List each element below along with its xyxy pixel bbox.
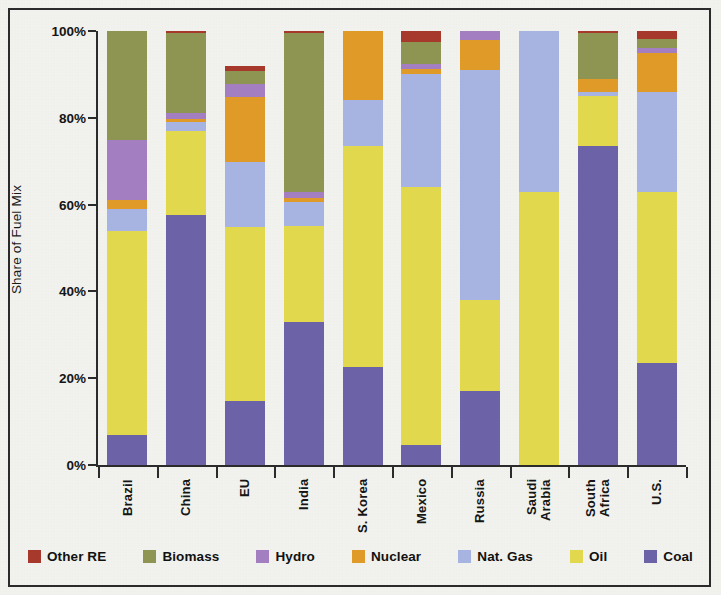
x-axis-tick-mark [568,467,570,478]
bar-segment[interactable] [460,300,500,391]
legend-color-swatch [28,550,41,563]
bar-segment[interactable] [107,435,147,465]
bar-column[interactable] [637,31,677,465]
bar-segment[interactable] [637,192,677,363]
bar-segment[interactable] [578,33,618,79]
x-axis-category-label: U.S. [637,479,677,539]
x-axis-tick-mark [451,467,453,478]
bar-segment[interactable] [225,162,265,227]
x-axis-category-label-line: South [584,479,598,539]
x-axis-tick-mark [510,467,512,478]
bar-segment[interactable] [401,74,441,187]
x-axis-category-label: EU [225,479,265,539]
x-axis-category-label-line: Mexico [415,479,429,539]
bar-segment[interactable] [225,84,265,97]
legend-color-swatch [644,550,657,563]
legend-item[interactable]: Biomass [143,549,219,564]
y-axis-tick-mark [88,290,96,292]
legend-label: Nuclear [371,549,421,564]
x-axis-tick-mark [98,467,100,478]
bar-segment[interactable] [519,31,559,192]
bar-segment[interactable] [460,391,500,465]
bar-segment[interactable] [578,96,618,146]
x-axis-category-label: Brazil [107,479,147,539]
bar-column[interactable] [460,31,500,465]
bar-segment[interactable] [225,227,265,401]
bar-column[interactable] [166,31,206,465]
x-axis-category-label-line: S. Korea [356,479,370,539]
bar-segment[interactable] [578,146,618,465]
x-axis-tick-mark [686,467,688,478]
legend-item[interactable]: Nuclear [352,549,421,564]
bar-column[interactable] [343,31,383,465]
y-axis-tick-label: 0% [66,458,86,473]
x-axis-tick-mark [627,467,629,478]
bar-segment[interactable] [637,39,677,48]
legend-item[interactable]: Other RE [28,549,106,564]
x-axis-category-label: China [166,479,206,539]
legend-label: Coal [663,549,693,564]
bar-column[interactable] [284,31,324,465]
y-axis-tick-mark [88,204,96,206]
bar-segment[interactable] [166,131,206,216]
bar-segment[interactable] [637,53,677,92]
bar-segment[interactable] [107,31,147,140]
x-axis-category-label: SaudiArabia [519,479,559,539]
bar-segment[interactable] [107,231,147,435]
bar-column[interactable] [225,31,265,465]
bar-segment[interactable] [401,42,441,64]
bar-segment[interactable] [225,71,265,84]
x-axis-tick-labels: BrazilChinaEUIndiaS. KoreaMexicoRussiaSa… [98,479,686,539]
bar-segment[interactable] [284,202,324,226]
bar-segment[interactable] [166,33,206,113]
bar-column[interactable] [578,31,618,465]
bar-segment[interactable] [637,363,677,465]
x-axis-category-label-line: U.S. [650,479,664,539]
y-axis-tick-mark [88,117,96,119]
x-axis-ticks [98,467,686,479]
legend-item[interactable]: Coal [644,549,693,564]
bar-segment[interactable] [166,122,206,131]
bar-segment[interactable] [637,92,677,192]
stacked-bars-area [98,31,686,465]
bar-segment[interactable] [460,40,500,70]
bar-segment[interactable] [107,200,147,209]
y-axis-tick-label: 40% [59,284,86,299]
bar-segment[interactable] [284,33,324,191]
bar-segment[interactable] [401,31,441,42]
bar-column[interactable] [401,31,441,465]
legend-item[interactable]: Hydro [256,549,315,564]
bar-segment[interactable] [284,322,324,465]
legend-item[interactable]: Nat. Gas [458,549,533,564]
legend-color-swatch [143,550,156,563]
bar-segment[interactable] [107,140,147,201]
x-axis-tick-mark [157,467,159,478]
bar-segment[interactable] [343,100,383,146]
bar-segment[interactable] [107,209,147,231]
bar-segment[interactable] [401,445,441,465]
bar-segment[interactable] [225,97,265,162]
bar-segment[interactable] [343,367,383,465]
bar-segment[interactable] [166,215,206,465]
bar-segment[interactable] [401,187,441,445]
legend-label: Nat. Gas [477,549,533,564]
bar-segment[interactable] [343,31,383,100]
legend-label: Oil [589,549,607,564]
bar-segment[interactable] [637,31,677,39]
x-axis-category-label-line: Brazil [121,479,135,539]
bar-segment[interactable] [284,226,324,321]
bar-segment[interactable] [460,70,500,300]
bar-segment[interactable] [519,192,559,465]
bar-segment[interactable] [225,401,265,465]
bar-segment[interactable] [578,79,618,92]
bar-column[interactable] [107,31,147,465]
legend-label: Hydro [275,549,315,564]
x-axis-category-label-line: Russia [473,479,487,539]
bar-segment[interactable] [343,146,383,367]
bar-column[interactable] [519,31,559,465]
legend-color-swatch [256,550,269,563]
legend-item[interactable]: Oil [570,549,607,564]
chart-legend: Other REBiomassHydroNuclearNat. GasOilCo… [28,549,693,564]
x-axis-category-label-line: India [297,479,311,539]
bar-segment[interactable] [460,31,500,40]
